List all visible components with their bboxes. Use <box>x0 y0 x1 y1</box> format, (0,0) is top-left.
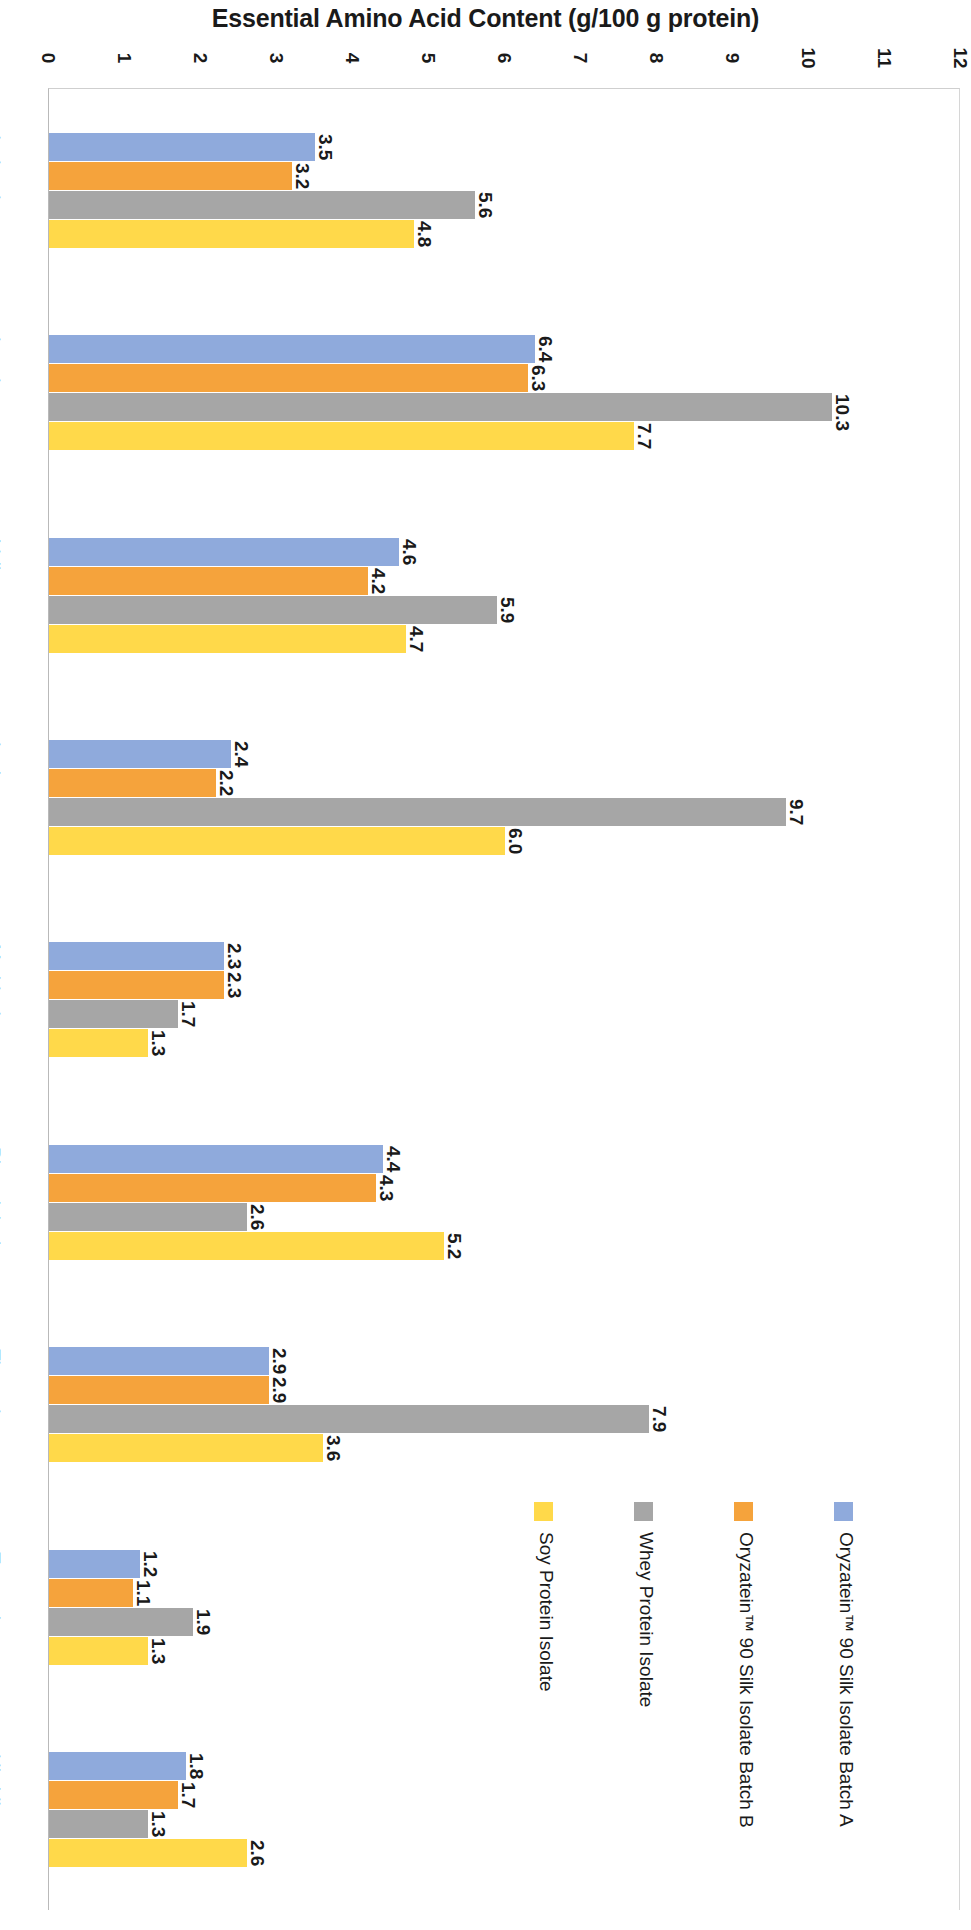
bar[interactable] <box>49 1232 444 1260</box>
bar-value-label: 4.7 <box>402 626 430 684</box>
bar-row: 5.2 <box>49 1232 961 1260</box>
bar-row: 2.4 <box>49 740 961 768</box>
legend-item[interactable]: Oryzatein™ 90 Silk Isolate Batch A <box>830 1496 858 1916</box>
bar[interactable] <box>49 1000 178 1028</box>
bar[interactable] <box>49 942 224 970</box>
axis-tick-label: 4 <box>332 38 372 78</box>
bar-row: 2.9 <box>49 1376 961 1404</box>
legend-swatch-icon <box>834 1502 853 1521</box>
bar-value-label: 5.2 <box>440 1233 468 1291</box>
axis-tick-label: 1 <box>104 38 144 78</box>
axis-tick-label: 5 <box>408 38 448 78</box>
bar[interactable] <box>49 1810 148 1838</box>
axis-tick-label: 8 <box>636 38 676 78</box>
bar-row: 4.6 <box>49 538 961 566</box>
bar[interactable] <box>49 798 786 826</box>
bar-row: 4.4 <box>49 1145 961 1173</box>
bar[interactable] <box>49 393 832 421</box>
bar[interactable] <box>49 1579 133 1607</box>
bar-row: 2.6 <box>49 1203 961 1231</box>
bar[interactable] <box>49 827 505 855</box>
bar-value-label: 1.3 <box>144 1638 172 1696</box>
category-group: Leucine6.46.310.37.7 <box>49 291 959 493</box>
bar-row: 4.7 <box>49 625 961 653</box>
bar[interactable] <box>49 162 292 190</box>
bar[interactable] <box>49 191 475 219</box>
bar-row: 6.3 <box>49 364 961 392</box>
legend-swatch-icon <box>734 1502 753 1521</box>
bar-row: 5.9 <box>49 596 961 624</box>
bar[interactable] <box>49 1405 649 1433</box>
bar-row: 1.7 <box>49 1000 961 1028</box>
chart-title: Essential Amino Acid Content (g/100 g pr… <box>0 4 971 33</box>
chart-container: Essential Amino Acid Content (g/100 g pr… <box>0 0 971 1930</box>
category-axis-label: Histidine <box>0 1754 3 1930</box>
bar[interactable] <box>49 740 231 768</box>
bar[interactable] <box>49 335 535 363</box>
bar-row: 2.3 <box>49 942 961 970</box>
category-group: Valine4.64.25.94.7 <box>49 494 959 696</box>
category-axis-label: Phenylalanine <box>0 1147 3 1327</box>
category-axis-label: Lysine <box>0 742 3 922</box>
bar[interactable] <box>49 971 224 999</box>
bar-row: 10.3 <box>49 393 961 421</box>
legend-item[interactable]: Oryzatein™ 90 Silk Isolate Batch B <box>730 1496 758 1916</box>
category-group: Isoleucine3.53.25.64.8 <box>49 89 959 291</box>
bar-value-label: 3.6 <box>319 1435 347 1493</box>
bar-row: 4.2 <box>49 567 961 595</box>
bar[interactable] <box>49 1434 323 1462</box>
bar[interactable] <box>49 596 497 624</box>
bar[interactable] <box>49 538 399 566</box>
legend-item[interactable]: Soy Protein Isolate <box>530 1496 558 1916</box>
bar-row: 6.0 <box>49 827 961 855</box>
bar[interactable] <box>49 567 368 595</box>
category-axis-label: Tryptophan <box>0 1552 3 1732</box>
bar[interactable] <box>49 220 414 248</box>
bar-row: 3.5 <box>49 133 961 161</box>
bar[interactable] <box>49 1608 193 1636</box>
bar-row: 3.6 <box>49 1434 961 1462</box>
value-axis: 0123456789101112 <box>0 38 971 82</box>
axis-tick-label: 12 <box>940 38 971 78</box>
bar[interactable] <box>49 1752 186 1780</box>
legend-swatch-icon <box>534 1502 553 1521</box>
bar[interactable] <box>49 1145 383 1173</box>
legend-label: Soy Protein Isolate <box>537 1532 556 1912</box>
bar-row: 3.2 <box>49 162 961 190</box>
bar-value-label: 7.7 <box>630 423 658 481</box>
bar[interactable] <box>49 1029 148 1057</box>
legend-label: Whey Protein Isolate <box>637 1532 656 1912</box>
bar-value-label: 2.6 <box>243 1840 271 1898</box>
bar[interactable] <box>49 1203 247 1231</box>
bar[interactable] <box>49 1781 178 1809</box>
legend-item[interactable]: Whey Protein Isolate <box>630 1496 658 1916</box>
bar[interactable] <box>49 769 216 797</box>
bar[interactable] <box>49 364 528 392</box>
bar-row: 6.4 <box>49 335 961 363</box>
axis-tick-label: 7 <box>560 38 600 78</box>
legend-swatch-icon <box>634 1502 653 1521</box>
axis-tick-label: 3 <box>256 38 296 78</box>
bar[interactable] <box>49 1376 269 1404</box>
category-axis-label: Isoleucine <box>0 135 3 315</box>
bar[interactable] <box>49 1839 247 1867</box>
bar[interactable] <box>49 1550 140 1578</box>
bar-row: 4.3 <box>49 1174 961 1202</box>
axis-tick-label: 10 <box>788 38 828 78</box>
bar-value-label: 4.8 <box>410 221 438 279</box>
category-group: Methionine2.32.31.71.3 <box>49 899 959 1101</box>
axis-tick-label: 11 <box>864 38 904 78</box>
bar[interactable] <box>49 1174 376 1202</box>
axis-tick-label: 2 <box>180 38 220 78</box>
bar-row: 2.3 <box>49 971 961 999</box>
bar[interactable] <box>49 1637 148 1665</box>
category-axis-label: Leucine <box>0 337 3 517</box>
bar[interactable] <box>49 625 406 653</box>
bar-row: 7.7 <box>49 422 961 450</box>
bar[interactable] <box>49 422 634 450</box>
bar[interactable] <box>49 1347 269 1375</box>
category-axis-label: Valine <box>0 540 3 720</box>
bar[interactable] <box>49 133 315 161</box>
category-axis-label: Threonine <box>0 1349 3 1529</box>
category-group: Threonine2.92.97.93.6 <box>49 1304 959 1506</box>
